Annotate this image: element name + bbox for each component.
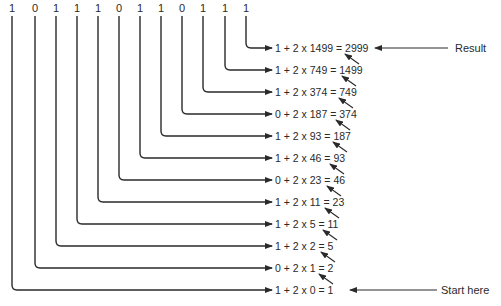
binary-digit: 1 — [92, 2, 104, 14]
bit-connector-arrow — [56, 16, 272, 246]
binary-digit: 1 — [219, 2, 231, 14]
bit-connector-arrow — [12, 16, 272, 290]
bit-connector-arrow — [161, 16, 272, 136]
bit-connector-arrow — [225, 16, 272, 70]
carry-arrow — [330, 164, 344, 174]
carry-arrow — [333, 142, 347, 152]
equation-row: 1 + 2 x 749 = 1499 — [275, 64, 363, 76]
equation-row: 1 + 2 x 0 = 1 — [275, 284, 333, 296]
equation-row: 1 + 2 x 46 = 93 — [275, 152, 345, 164]
start-here-label: Start here — [441, 284, 489, 296]
binary-digit: 1 — [155, 2, 167, 14]
carry-arrow — [319, 274, 333, 284]
equation-row: 1 + 2 x 11 = 23 — [275, 196, 344, 208]
equation-row: 0 + 2 x 1 = 2 — [275, 262, 333, 274]
bit-connector-arrow — [119, 16, 272, 180]
binary-to-decimal-diagram: 101110110111 1 + 2 x 1499 = 29991 + 2 x … — [0, 0, 501, 306]
carry-arrow — [327, 186, 341, 196]
bit-connector-arrow — [77, 16, 272, 224]
carry-arrow — [339, 98, 353, 108]
binary-digit: 1 — [134, 2, 146, 14]
carry-arrow — [325, 208, 339, 218]
result-label: Result — [455, 42, 486, 54]
connector-lines — [0, 0, 501, 306]
equation-row: 0 + 2 x 23 = 46 — [275, 174, 345, 186]
carry-arrow — [323, 230, 337, 240]
equation-row: 1 + 2 x 5 = 11 — [275, 218, 338, 230]
binary-digit: 0 — [176, 2, 188, 14]
binary-digit: 0 — [113, 2, 125, 14]
carry-arrow — [336, 120, 350, 130]
binary-digit: 1 — [240, 2, 252, 14]
binary-digit: 1 — [197, 2, 209, 14]
bit-connector-arrow — [246, 16, 272, 48]
binary-digit: 1 — [6, 2, 18, 14]
bit-connector-arrow — [35, 16, 272, 268]
carry-arrow — [345, 54, 359, 64]
binary-digit: 0 — [29, 2, 41, 14]
carry-arrow — [321, 252, 335, 262]
equation-row: 1 + 2 x 374 = 749 — [275, 86, 357, 98]
bit-connector-arrow — [182, 16, 272, 114]
equation-row: 0 + 2 x 187 = 374 — [275, 108, 357, 120]
carry-arrow — [342, 76, 356, 86]
equation-row: 1 + 2 x 93 = 187 — [275, 130, 351, 142]
equation-row: 1 + 2 x 2 = 5 — [275, 240, 333, 252]
equation-row: 1 + 2 x 1499 = 2999 — [275, 42, 368, 54]
bit-connector-arrow — [203, 16, 272, 92]
binary-digit: 1 — [50, 2, 62, 14]
binary-digit: 1 — [71, 2, 83, 14]
